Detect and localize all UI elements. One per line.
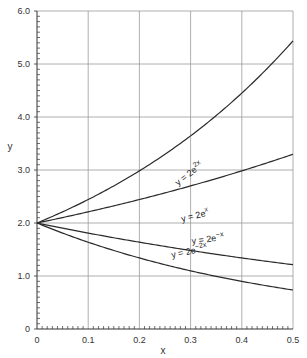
curve-label: y = 2ex	[180, 205, 211, 224]
x-axis-label: x	[161, 345, 166, 356]
x-tick-label: 0.2	[133, 335, 146, 345]
exponential-chart: 00.10.20.30.40.501.02.03.04.05.06.0 x y …	[0, 0, 307, 358]
y-tick-label: 0	[25, 324, 30, 334]
y-tick-label: 6.0	[17, 6, 30, 16]
curve-3	[37, 223, 293, 290]
y-tick-label: 1.0	[17, 271, 30, 281]
y-axis-label: y	[8, 141, 13, 152]
x-tick-label: 0.4	[236, 335, 249, 345]
curve-0	[37, 41, 293, 223]
tick-labels: 00.10.20.30.40.501.02.03.04.05.06.0	[17, 6, 299, 345]
x-tick-label: 0.3	[184, 335, 197, 345]
x-tick-label: 0.5	[287, 335, 300, 345]
x-tick-label: 0	[34, 335, 39, 345]
x-tick-label: 0.1	[82, 335, 95, 345]
curve-label: y = 2e−2x	[170, 241, 208, 260]
y-tick-label: 5.0	[17, 59, 30, 69]
grid	[37, 11, 293, 329]
y-tick-label: 3.0	[17, 165, 30, 175]
curves	[37, 41, 293, 290]
curve-1	[37, 154, 293, 223]
curve-labels: y = 2e2xy = 2exy = 2e−xy = 2e−2x	[170, 158, 225, 260]
curve-2	[37, 223, 293, 265]
y-tick-label: 2.0	[17, 218, 30, 228]
y-tick-label: 4.0	[17, 112, 30, 122]
